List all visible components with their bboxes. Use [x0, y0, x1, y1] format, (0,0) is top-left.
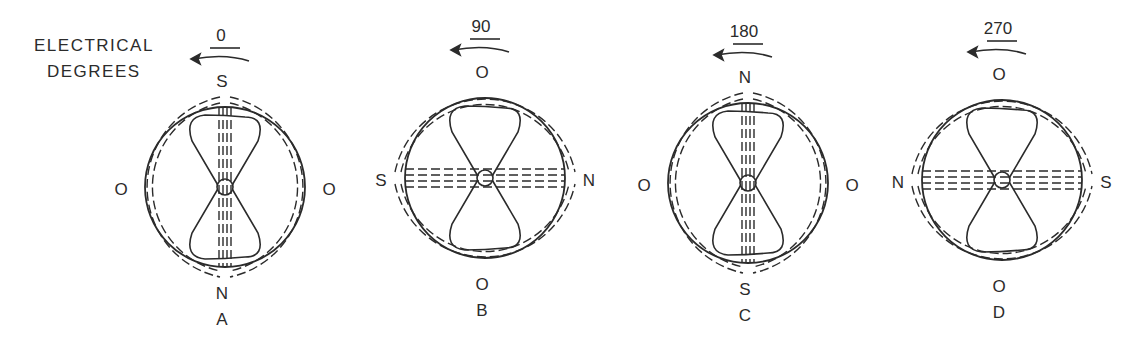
pole-label-left: O: [114, 181, 127, 198]
pole-label-right: S: [1100, 174, 1111, 191]
degree-label: 90: [472, 18, 491, 35]
pole-label-right: O: [322, 181, 335, 198]
pole-label-left: O: [637, 177, 650, 194]
rotation-arrow-icon: [716, 52, 772, 57]
arrowhead-icon: [714, 50, 723, 60]
panel-letter: B: [476, 302, 487, 319]
arrowhead-icon: [191, 54, 200, 64]
rotor-lobe-lower: [190, 187, 260, 259]
alternator-rotor-diagram: [0, 0, 1142, 350]
rotor-lobe-upper: [967, 108, 1037, 180]
pole-label-left: S: [375, 172, 386, 189]
rotation-arrow-icon: [193, 56, 249, 61]
pole-label-right: N: [583, 172, 595, 189]
rotor-lobe-upper: [713, 111, 783, 183]
rotor-lobe-lower: [967, 180, 1037, 252]
rotor-shaft: [477, 170, 493, 186]
rotor-shaft: [994, 172, 1010, 188]
pole-label-right: O: [845, 177, 858, 194]
pole-label-top: O: [992, 66, 1005, 83]
arrowhead-icon: [968, 47, 977, 57]
pole-label-top: O: [475, 64, 488, 81]
pole-label-left: N: [892, 174, 904, 191]
rotor-lobe-lower: [450, 178, 520, 250]
panel-letter: A: [216, 311, 227, 328]
panel-letter: D: [993, 304, 1005, 321]
rotor-lobe-lower: [713, 183, 783, 255]
pole-label-bottom: S: [739, 281, 750, 298]
panel-letter: C: [739, 307, 751, 324]
pole-label-bottom: O: [992, 278, 1005, 295]
rotation-arrow-icon: [453, 47, 509, 52]
rotor-lobe-upper: [450, 106, 520, 178]
rotor-lobe-upper: [190, 115, 260, 187]
pole-label-bottom: N: [216, 285, 228, 302]
degree-label: 180: [730, 23, 758, 40]
rotation-arrow-icon: [970, 49, 1026, 54]
pole-label-bottom: O: [475, 276, 488, 293]
degree-label: 270: [984, 20, 1012, 37]
pole-label-top: S: [216, 73, 227, 90]
pole-label-top: N: [739, 69, 751, 86]
degree-label: 0: [216, 27, 225, 44]
arrowhead-icon: [451, 45, 460, 55]
